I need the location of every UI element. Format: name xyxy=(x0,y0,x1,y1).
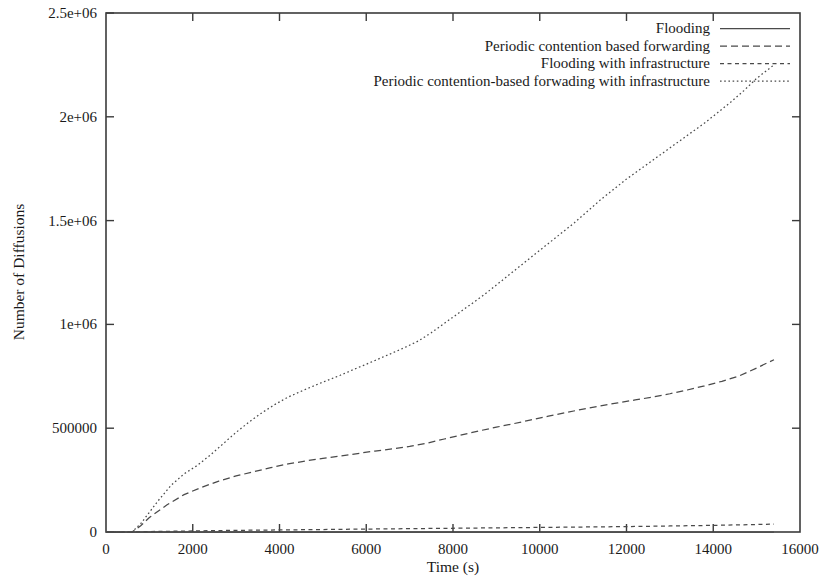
x-tick-label: 12000 xyxy=(608,541,646,557)
legend-label-1: Flooding xyxy=(656,20,711,36)
y-tick-label: 2e+06 xyxy=(59,109,97,125)
y-tick-label: 0 xyxy=(90,524,98,540)
legend-label-2: Periodic contention based forwarding xyxy=(485,38,711,54)
x-tick-label: 0 xyxy=(102,541,110,557)
y-tick-label: 1e+06 xyxy=(59,316,97,332)
x-tick-label: 10000 xyxy=(521,541,559,557)
x-tick-label: 2000 xyxy=(178,541,208,557)
x-axis-title: Time (s) xyxy=(427,558,479,576)
x-tick-label: 8000 xyxy=(438,541,468,557)
y-axis-title: Number of Diffusions xyxy=(10,204,27,341)
y-tick-label: 500000 xyxy=(52,420,97,436)
y-tick-label: 2.5e+06 xyxy=(48,5,97,21)
legend-label-3: Flooding with infrastructure xyxy=(541,55,710,71)
y-tick-label: 1.5e+06 xyxy=(48,213,97,229)
line-chart: 0200040006000800010000120001400016000 05… xyxy=(0,0,831,580)
chart-figure: 0200040006000800010000120001400016000 05… xyxy=(0,0,831,580)
x-tick-label: 4000 xyxy=(265,541,295,557)
legend-label-4: Periodic contention-based forwading with… xyxy=(373,73,710,89)
x-tick-label: 16000 xyxy=(781,541,819,557)
x-tick-label: 6000 xyxy=(351,541,381,557)
x-tick-label: 14000 xyxy=(695,541,733,557)
